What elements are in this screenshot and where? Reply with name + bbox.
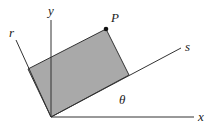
y-axis-label: y (46, 3, 54, 18)
point-p-label: P (110, 10, 119, 25)
angle-theta-label: θ (119, 92, 126, 107)
x-axis-label: x (197, 109, 204, 124)
point-p-marker (104, 27, 109, 32)
rotated-axes-diagram: x y r s P θ (0, 0, 214, 131)
s-axis-label: s (185, 39, 190, 54)
r-axis-label: r (9, 25, 15, 40)
shaded-rectangle (28, 29, 129, 117)
